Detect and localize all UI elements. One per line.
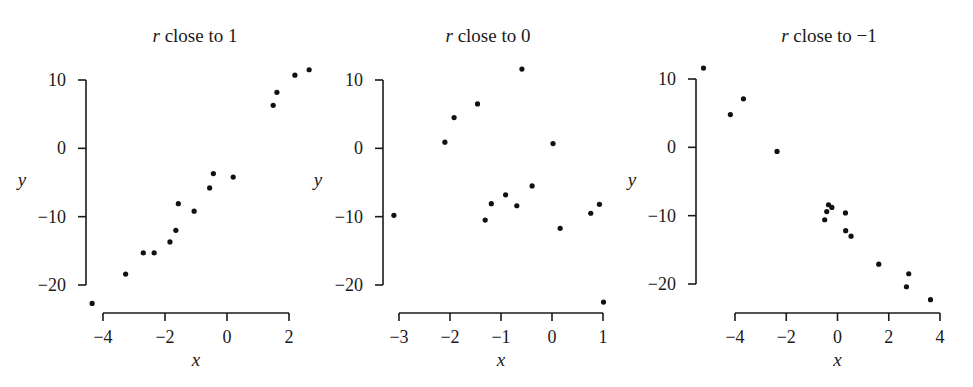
data-point — [307, 67, 312, 72]
y-tick-label: 0 — [57, 138, 66, 158]
data-point — [774, 149, 779, 154]
data-point — [292, 73, 297, 78]
x-tick-label: −4 — [725, 327, 744, 347]
data-point — [906, 271, 911, 276]
correlation-figure: r close to 1100−10−20y−4−202x r close to… — [0, 0, 973, 387]
data-point — [741, 96, 746, 101]
x-axis-label: x — [191, 349, 201, 370]
x-tick-label: 2 — [884, 327, 893, 347]
data-point — [442, 140, 447, 145]
title-text: close to 1 — [160, 25, 238, 46]
data-point — [588, 211, 593, 216]
y-tick-label: −20 — [648, 274, 676, 294]
panel-r-close-to-0: r close to 0100−10−20y−3−2−101x — [312, 25, 608, 370]
data-point — [274, 90, 279, 95]
y-axis-label: y — [16, 169, 27, 190]
y-tick-label: 10 — [48, 70, 66, 90]
data-point — [701, 65, 706, 70]
title-text: close to −1 — [789, 25, 877, 46]
data-point — [597, 202, 602, 207]
data-point — [848, 234, 853, 239]
data-point — [483, 217, 488, 222]
data-point — [824, 209, 829, 214]
x-tick-label: −2 — [155, 327, 174, 347]
chart-title: r close to 0 — [446, 25, 531, 46]
data-point — [550, 141, 555, 146]
data-point — [928, 297, 933, 302]
data-point — [123, 271, 128, 276]
data-point — [503, 192, 508, 197]
data-point — [514, 203, 519, 208]
data-point — [489, 201, 494, 206]
data-point — [167, 239, 172, 244]
chart-title: r close to −1 — [781, 25, 877, 46]
x-tick-label: −2 — [777, 327, 796, 347]
data-point — [843, 228, 848, 233]
y-tick-label: 10 — [658, 69, 676, 89]
x-axis-label: x — [832, 349, 842, 370]
y-tick-label: −20 — [335, 275, 363, 295]
data-point — [904, 284, 909, 289]
data-point — [391, 213, 396, 218]
x-tick-label: 0 — [223, 327, 232, 347]
data-point — [173, 228, 178, 233]
data-point — [475, 101, 480, 106]
x-tick-label: −2 — [440, 327, 459, 347]
data-point — [519, 66, 524, 71]
x-tick-label: 2 — [285, 327, 294, 347]
y-tick-label: 0 — [667, 137, 676, 157]
data-point — [192, 209, 197, 214]
data-point — [843, 210, 848, 215]
panel-r-close-to-minus-1: r close to −1100−10−20y−4−2024x — [626, 25, 945, 370]
data-point — [728, 112, 733, 117]
x-tick-label: −1 — [491, 327, 510, 347]
x-tick-label: 4 — [936, 327, 945, 347]
data-point — [176, 201, 181, 206]
panel-r-close-to-1: r close to 1100−10−20y−4−202x — [16, 25, 312, 370]
data-point — [231, 174, 236, 179]
chart-title: r close to 1 — [153, 25, 238, 46]
y-axis-label: y — [312, 169, 323, 190]
data-point — [207, 185, 212, 190]
x-axis-label: x — [496, 349, 506, 370]
y-tick-label: −10 — [648, 206, 676, 226]
data-point — [530, 183, 535, 188]
data-point — [271, 103, 276, 108]
title-text: close to 0 — [453, 25, 531, 46]
y-axis-label: y — [626, 169, 637, 190]
y-tick-label: −20 — [38, 275, 66, 295]
x-tick-label: 0 — [833, 327, 842, 347]
data-point — [876, 262, 881, 267]
data-point — [829, 205, 834, 210]
data-point — [601, 299, 606, 304]
y-tick-label: 10 — [345, 70, 363, 90]
x-tick-label: −4 — [93, 327, 112, 347]
data-point — [451, 115, 456, 120]
data-point — [558, 226, 563, 231]
y-tick-label: 0 — [354, 138, 363, 158]
y-tick-label: −10 — [335, 207, 363, 227]
data-point — [152, 250, 157, 255]
data-point — [822, 217, 827, 222]
x-tick-label: 0 — [548, 327, 557, 347]
data-point — [211, 171, 216, 176]
data-point — [90, 301, 95, 306]
data-point — [141, 250, 146, 255]
x-tick-label: 1 — [599, 327, 608, 347]
x-tick-label: −3 — [389, 327, 408, 347]
y-tick-label: −10 — [38, 207, 66, 227]
